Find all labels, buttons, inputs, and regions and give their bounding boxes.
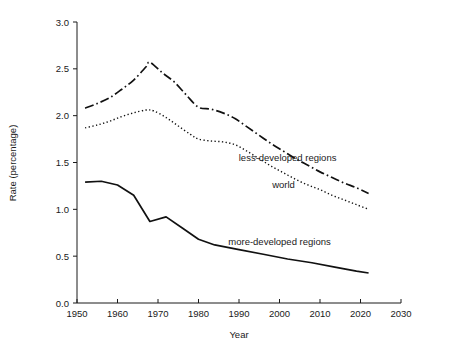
rate-over-time-line-chart: 0.00.51.01.52.02.53.0 195019601970198019… bbox=[0, 0, 459, 356]
chart-container: 0.00.51.01.52.02.53.0 195019601970198019… bbox=[0, 0, 459, 356]
y-axis-title: Rate (percentage) bbox=[7, 125, 18, 202]
x-axis-title: Year bbox=[229, 329, 248, 340]
series-label-world: world bbox=[271, 179, 295, 190]
x-tick-label: 2020 bbox=[350, 308, 371, 319]
x-tick-label: 1970 bbox=[147, 308, 168, 319]
series-label-more-developed-regions: more-developed regions bbox=[228, 236, 331, 247]
y-tick-label: 1.5 bbox=[56, 157, 69, 168]
x-tick-label: 1990 bbox=[228, 308, 249, 319]
y-tick-label: 3.0 bbox=[56, 17, 69, 28]
x-tick-label: 2010 bbox=[309, 308, 330, 319]
x-tick-label: 2030 bbox=[390, 308, 411, 319]
x-tick-label: 1980 bbox=[188, 308, 209, 319]
series-annotations: less-developed regionsworldmore-develope… bbox=[228, 152, 336, 247]
y-tick-label: 1.0 bbox=[56, 204, 69, 215]
series-line-less-developed-regions bbox=[85, 62, 369, 193]
series-label-less-developed-regions: less-developed regions bbox=[239, 152, 337, 163]
series-line-more-developed-regions bbox=[85, 181, 369, 273]
x-tick-label: 1960 bbox=[107, 308, 128, 319]
x-tick-label: 1950 bbox=[66, 308, 87, 319]
y-axis: 0.00.51.01.52.02.53.0 bbox=[56, 17, 77, 309]
x-axis: 195019601970198019902000201020202030 bbox=[66, 299, 411, 319]
y-tick-label: 2.0 bbox=[56, 110, 69, 121]
y-tick-label: 0.0 bbox=[56, 298, 69, 309]
y-tick-label: 0.5 bbox=[56, 251, 69, 262]
y-tick-label: 2.5 bbox=[56, 63, 69, 74]
x-tick-label: 2000 bbox=[269, 308, 290, 319]
